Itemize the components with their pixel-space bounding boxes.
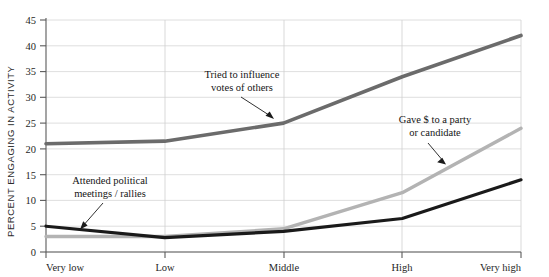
annotation-gave-line1: Gave $ to a party [399,114,472,125]
chart-container: PERCENT ENGAGING IN ACTIVITY 0 5 10 15 2… [0,0,549,277]
y-tick-label-40: 40 [26,41,37,52]
annotation-meetings-line2: meetings / rallies [74,188,146,199]
y-tick-label-10: 10 [26,195,37,206]
annotation-meetings-line1: Attended political [72,175,148,186]
annotation-gave-arrowhead [437,158,446,165]
y-tick-label-30: 30 [26,92,37,103]
annotation-influence-arrowhead [266,112,275,119]
y-tick-label-0: 0 [31,247,36,258]
y-tick-label-45: 45 [26,15,37,26]
annotation-influence-line1: Tried to influence [205,69,280,80]
annotation-attended-meetings: Attended political meetings / rallies [72,175,148,230]
y-tick-label-15: 15 [26,170,37,181]
annotation-gave-money: Gave $ to a party or candidate [399,114,472,165]
annotation-gave-line2: or candidate [409,127,461,138]
x-tick-label-middle: Middle [269,262,300,273]
annotation-influence-line2: votes of others [211,82,273,93]
annotation-tried-to-influence: Tried to influence votes of others [205,69,280,119]
x-tick-label-very-low: Very low [46,262,85,273]
y-tick-label-5: 5 [31,221,36,232]
y-tick-label-20: 20 [26,144,37,155]
y-tick-marks [40,20,46,252]
y-tick-label-35: 35 [26,66,37,77]
x-tick-marks [46,252,521,258]
x-tick-label-very-high: Very high [480,262,522,273]
x-tick-label-low: Low [155,262,175,273]
y-tick-label-25: 25 [26,118,37,129]
y-axis-title: PERCENT ENGAGING IN ACTIVITY [5,65,16,237]
line-chart: PERCENT ENGAGING IN ACTIVITY 0 5 10 15 2… [0,0,549,277]
x-tick-label-high: High [392,262,414,273]
